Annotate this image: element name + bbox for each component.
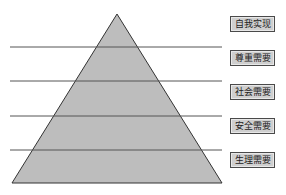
pyramid	[12, 14, 222, 183]
level-label-social: 社会需要	[230, 84, 275, 100]
level-label-physiological: 生理需要	[230, 152, 275, 168]
level-label-esteem: 尊重需要	[230, 50, 275, 66]
level-label-safety: 安全需要	[230, 118, 275, 134]
level-label-self-actualization: 自我实现	[230, 16, 275, 32]
